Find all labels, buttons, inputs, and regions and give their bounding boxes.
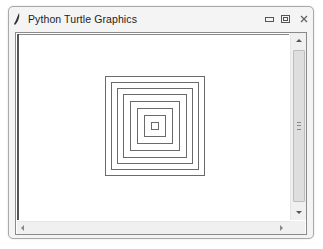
vertical-scroll-thumb[interactable] <box>293 50 305 202</box>
scroll-up-arrow-icon[interactable] <box>296 39 302 42</box>
close-icon <box>300 15 308 23</box>
scroll-right-arrow-icon[interactable] <box>280 225 283 231</box>
canvas-left-edge <box>17 34 19 220</box>
turtle-window: Python Turtle Graphics <box>8 6 314 239</box>
maximize-icon <box>281 15 290 23</box>
scroll-down-arrow-icon[interactable] <box>296 211 302 214</box>
square-outline <box>151 122 159 130</box>
vertical-scrollbar[interactable] <box>290 33 306 220</box>
close-button[interactable] <box>296 12 312 25</box>
window-title: Python Turtle Graphics <box>28 13 137 25</box>
scrollbar-corner <box>290 221 305 234</box>
scroll-left-arrow-icon[interactable] <box>21 225 24 231</box>
maximize-button[interactable] <box>277 12 293 25</box>
feather-icon <box>14 13 20 25</box>
title-bar[interactable]: Python Turtle Graphics <box>9 7 313 31</box>
minimize-icon <box>265 16 274 22</box>
grip-icon <box>297 122 301 130</box>
minimize-button[interactable] <box>261 12 277 25</box>
canvas-frame <box>15 32 307 235</box>
horizontal-scrollbar[interactable] <box>17 221 290 234</box>
canvas-top-edge <box>17 34 289 35</box>
turtle-canvas[interactable] <box>17 34 289 220</box>
